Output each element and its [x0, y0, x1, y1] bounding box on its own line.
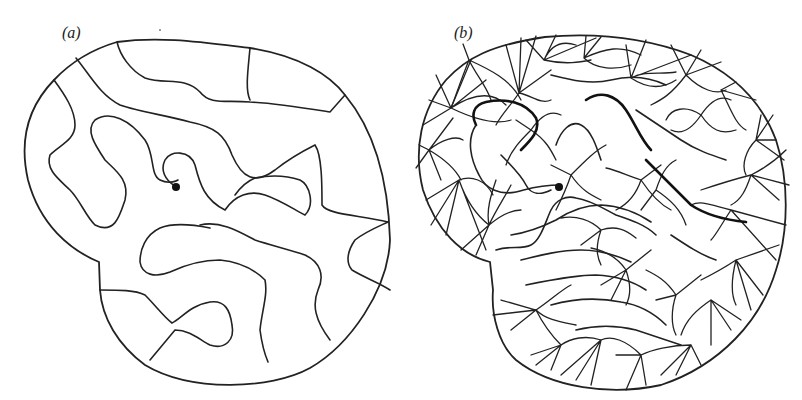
contour-line: [100, 290, 233, 360]
contour-line: [49, 80, 178, 228]
panel-b: (b): [401, 0, 802, 400]
contour-line: [76, 58, 388, 222]
contour-line: [348, 222, 390, 290]
panel-a: (a): [0, 0, 401, 400]
hub-star-pattern: [416, 35, 789, 390]
defect-core-dot: [172, 183, 180, 191]
spiral-line: [163, 153, 310, 215]
panel-a-drawing: [0, 0, 401, 400]
contour-line: [247, 48, 250, 100]
panel-b-drawing: [401, 0, 802, 400]
contour-line: [117, 42, 345, 112]
panel-b-domain-outline: [419, 36, 786, 390]
defect-core-dot: [555, 183, 563, 191]
